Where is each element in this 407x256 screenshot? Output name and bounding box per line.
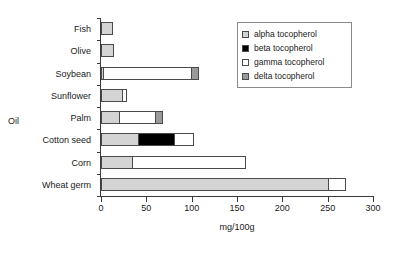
legend-swatch-icon bbox=[242, 45, 249, 52]
x-axis-tick-label: 100 bbox=[184, 203, 199, 213]
y-axis-tick bbox=[97, 129, 101, 130]
bar-segment-alpha bbox=[101, 111, 120, 124]
y-axis-tick bbox=[97, 152, 101, 153]
category-label: Palm bbox=[70, 107, 91, 129]
stacked-bar bbox=[101, 44, 114, 57]
bar-row bbox=[101, 174, 373, 196]
bar-segment-alpha bbox=[101, 156, 133, 169]
bar-segment-beta bbox=[138, 133, 175, 146]
bar-row bbox=[101, 152, 373, 174]
y-axis-tick bbox=[97, 18, 101, 19]
bar-segment-alpha bbox=[101, 89, 123, 102]
x-axis-tick-label: 0 bbox=[98, 203, 103, 213]
x-axis-tick bbox=[101, 197, 102, 202]
x-axis-tick bbox=[373, 197, 374, 202]
legend-item: delta tocopherol bbox=[242, 69, 346, 83]
stacked-bar bbox=[101, 89, 127, 102]
bar-segment-delta bbox=[191, 67, 199, 80]
bar-segment-gamma bbox=[174, 133, 194, 146]
x-axis-tick bbox=[328, 197, 329, 202]
bar-segment-alpha bbox=[101, 22, 113, 35]
legend-item: beta tocopherol bbox=[242, 41, 346, 55]
x-axis-ticks bbox=[101, 197, 373, 202]
stacked-bar bbox=[101, 111, 163, 124]
stacked-bar bbox=[101, 178, 346, 191]
stacked-bar bbox=[101, 22, 113, 35]
bar-segment-gamma bbox=[103, 67, 192, 80]
category-label: Olive bbox=[70, 40, 91, 62]
bar-segment-alpha bbox=[101, 44, 114, 57]
legend-swatch-icon bbox=[242, 73, 249, 80]
legend-swatch-icon bbox=[242, 59, 249, 66]
stacked-bar bbox=[101, 156, 246, 169]
bar-row bbox=[101, 129, 373, 151]
legend-label: alpha tocopherol bbox=[254, 27, 317, 41]
x-axis-tick-label: 300 bbox=[365, 203, 380, 213]
stacked-bar bbox=[101, 67, 199, 80]
x-axis-tick bbox=[192, 197, 193, 202]
category-label: Wheat germ bbox=[42, 174, 91, 196]
tocopherol-stacked-bar-chart: Oil FishOliveSoybeanSunflowerPalmCotton … bbox=[0, 0, 407, 256]
legend-label: gamma tocopherol bbox=[254, 55, 324, 69]
category-label: Sunflower bbox=[51, 85, 91, 107]
legend-item: gamma tocopherol bbox=[242, 55, 346, 69]
category-axis-labels: FishOliveSoybeanSunflowerPalmCotton seed… bbox=[0, 18, 97, 196]
bar-segment-gamma bbox=[328, 178, 345, 191]
stacked-bar bbox=[101, 133, 194, 146]
bar-segment-alpha bbox=[101, 178, 329, 191]
y-axis-tick bbox=[97, 85, 101, 86]
x-axis-tick bbox=[282, 197, 283, 202]
x-axis-title: mg/100g bbox=[101, 222, 373, 232]
bar-segment-gamma bbox=[132, 156, 246, 169]
bar-segment-gamma bbox=[122, 89, 127, 102]
bar-segment-alpha bbox=[101, 133, 139, 146]
legend-label: delta tocopherol bbox=[254, 69, 315, 83]
bar-row bbox=[101, 85, 373, 107]
legend-label: beta tocopherol bbox=[254, 41, 313, 55]
bar-segment-delta bbox=[155, 111, 163, 124]
x-axis-tick-label: 50 bbox=[141, 203, 151, 213]
x-axis-tick-label: 200 bbox=[275, 203, 290, 213]
y-axis-tick bbox=[97, 174, 101, 175]
y-axis-tick bbox=[97, 63, 101, 64]
x-axis-tick bbox=[237, 197, 238, 202]
category-label: Soybean bbox=[55, 63, 91, 85]
y-axis-tick bbox=[97, 107, 101, 108]
x-axis-tick-label: 250 bbox=[320, 203, 335, 213]
category-label: Corn bbox=[71, 152, 91, 174]
x-axis-tick bbox=[146, 197, 147, 202]
bar-row bbox=[101, 107, 373, 129]
category-label: Cotton seed bbox=[42, 129, 91, 151]
x-axis-tick-label: 150 bbox=[229, 203, 244, 213]
bar-segment-gamma bbox=[119, 111, 156, 124]
category-label: Fish bbox=[74, 18, 91, 40]
legend-swatch-icon bbox=[242, 31, 249, 38]
chart-legend: alpha tocopherolbeta tocopherolgamma toc… bbox=[237, 22, 352, 88]
legend-item: alpha tocopherol bbox=[242, 27, 346, 41]
y-axis-tick bbox=[97, 40, 101, 41]
x-axis-tick-labels: 050100150200250300 bbox=[101, 203, 373, 217]
